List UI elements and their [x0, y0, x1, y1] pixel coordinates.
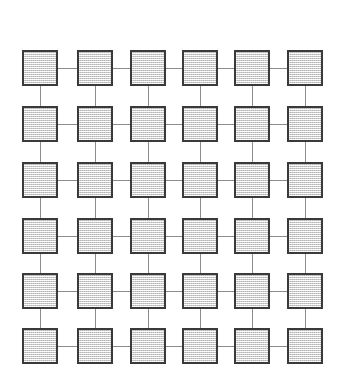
grid-node-square[interactable] [77, 106, 113, 142]
link-vertical [148, 309, 149, 328]
grid-node-square[interactable] [287, 50, 323, 86]
link-horizontal [113, 236, 130, 237]
link-vertical [40, 254, 41, 273]
link-vertical [252, 142, 253, 162]
link-horizontal [270, 291, 287, 292]
link-horizontal [270, 180, 287, 181]
link-horizontal [166, 180, 182, 181]
link-vertical [40, 309, 41, 328]
link-vertical [95, 309, 96, 328]
grid-node-square[interactable] [287, 273, 323, 309]
link-vertical [200, 309, 201, 328]
grid-node-square[interactable] [130, 106, 166, 142]
link-vertical [95, 198, 96, 218]
link-horizontal [166, 346, 182, 347]
link-vertical [148, 198, 149, 218]
grid-node-square[interactable] [77, 162, 113, 198]
grid-node-square[interactable] [287, 106, 323, 142]
link-vertical [148, 254, 149, 273]
link-horizontal [58, 124, 77, 125]
grid-node-square[interactable] [130, 162, 166, 198]
grid-node-square[interactable] [130, 50, 166, 86]
link-horizontal [58, 346, 77, 347]
link-horizontal [218, 236, 234, 237]
link-vertical [305, 309, 306, 328]
link-horizontal [58, 68, 77, 69]
mesh-grid-diagram [0, 0, 342, 389]
grid-node-square[interactable] [77, 273, 113, 309]
link-horizontal [218, 124, 234, 125]
grid-node-square[interactable] [182, 50, 218, 86]
link-horizontal [218, 346, 234, 347]
link-vertical [305, 86, 306, 106]
link-horizontal [166, 68, 182, 69]
grid-node-square[interactable] [287, 328, 323, 364]
link-vertical [305, 142, 306, 162]
grid-node-square[interactable] [234, 218, 270, 254]
link-vertical [200, 254, 201, 273]
grid-node-square[interactable] [287, 162, 323, 198]
link-horizontal [113, 291, 130, 292]
grid-node-square[interactable] [234, 328, 270, 364]
link-horizontal [166, 236, 182, 237]
link-vertical [200, 86, 201, 106]
link-horizontal [218, 180, 234, 181]
link-vertical [252, 254, 253, 273]
grid-node-square[interactable] [130, 273, 166, 309]
grid-node-square[interactable] [22, 106, 58, 142]
link-horizontal [270, 346, 287, 347]
figure-canvas [0, 0, 342, 389]
grid-node-square[interactable] [182, 328, 218, 364]
grid-node-square[interactable] [182, 162, 218, 198]
grid-node-square[interactable] [22, 218, 58, 254]
grid-node-square[interactable] [234, 50, 270, 86]
grid-node-square[interactable] [234, 273, 270, 309]
link-vertical [252, 86, 253, 106]
link-vertical [40, 198, 41, 218]
grid-node-square[interactable] [77, 218, 113, 254]
grid-node-square[interactable] [287, 218, 323, 254]
link-horizontal [113, 68, 130, 69]
grid-node-square[interactable] [22, 162, 58, 198]
link-vertical [40, 142, 41, 162]
grid-node-square[interactable] [130, 218, 166, 254]
link-vertical [252, 309, 253, 328]
link-horizontal [58, 236, 77, 237]
grid-node-square[interactable] [234, 106, 270, 142]
grid-node-square[interactable] [22, 328, 58, 364]
link-horizontal [58, 180, 77, 181]
grid-node-square[interactable] [22, 273, 58, 309]
link-vertical [252, 198, 253, 218]
link-vertical [200, 142, 201, 162]
grid-node-square[interactable] [130, 328, 166, 364]
link-vertical [305, 198, 306, 218]
grid-node-square[interactable] [234, 162, 270, 198]
link-horizontal [113, 180, 130, 181]
link-vertical [148, 142, 149, 162]
grid-node-square[interactable] [182, 106, 218, 142]
link-vertical [40, 86, 41, 106]
link-horizontal [166, 291, 182, 292]
grid-node-square[interactable] [22, 50, 58, 86]
link-horizontal [113, 124, 130, 125]
grid-node-square[interactable] [182, 218, 218, 254]
link-horizontal [270, 68, 287, 69]
link-horizontal [58, 291, 77, 292]
grid-node-square[interactable] [182, 273, 218, 309]
link-horizontal [270, 124, 287, 125]
link-horizontal [113, 346, 130, 347]
link-horizontal [218, 68, 234, 69]
link-vertical [95, 254, 96, 273]
link-horizontal [270, 236, 287, 237]
link-horizontal [218, 291, 234, 292]
link-vertical [148, 86, 149, 106]
link-vertical [95, 142, 96, 162]
link-vertical [305, 254, 306, 273]
link-vertical [200, 198, 201, 218]
grid-node-square[interactable] [77, 50, 113, 86]
link-vertical [95, 86, 96, 106]
link-horizontal [166, 124, 182, 125]
grid-node-square[interactable] [77, 328, 113, 364]
